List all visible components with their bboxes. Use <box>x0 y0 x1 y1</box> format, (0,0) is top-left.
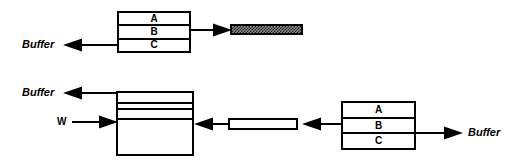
diagram-canvas: Buffer A B C Buffer W <box>0 0 523 166</box>
right-buffer-output-label: Buffer <box>468 127 500 138</box>
top-buffer-output-label: Buffer <box>22 39 54 50</box>
bottom-buffer-output-label: Buffer <box>22 87 54 98</box>
bottom-right-left-arrow-icon <box>302 117 342 131</box>
top-stack-cell-b: B <box>119 26 189 39</box>
bottom-stack-cell-b: B <box>343 119 414 135</box>
top-stack-cell-a: A <box>119 13 189 26</box>
bottom-stack-cell-a: A <box>343 103 414 119</box>
bottom-stack-cell-c: C <box>343 134 414 148</box>
buffer-band-divider-1 <box>118 102 192 104</box>
empty-bar <box>228 118 298 130</box>
top-left-arrow-icon <box>63 38 119 52</box>
top-right-arrow-icon <box>191 23 232 37</box>
top-source-stack: A B C <box>117 11 191 53</box>
top-stack-cell-c: C <box>119 40 189 51</box>
bottom-right-arrow-icon <box>416 126 463 140</box>
buffer-band-divider-3 <box>118 118 192 120</box>
bottom-source-stack: A B C <box>341 101 416 150</box>
buffer-accumulator <box>116 91 194 156</box>
w-input-label: W <box>57 117 66 127</box>
w-input-arrow-icon <box>72 115 118 129</box>
buffer-band-divider-2 <box>118 108 192 110</box>
hatched-bar <box>230 24 303 35</box>
bottom-left-arrow-icon <box>63 86 118 100</box>
bottom-mid-left-arrow-icon <box>194 117 230 131</box>
